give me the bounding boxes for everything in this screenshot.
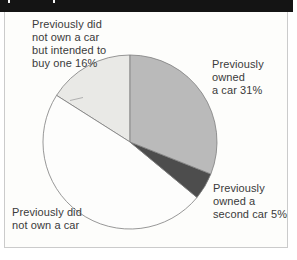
label-owned-car: Previously owned a car 31% <box>212 58 264 97</box>
label-second-car: Previously owned a second car 5% <box>213 182 287 221</box>
label-not-own-car: Previously did not own a car <box>12 206 82 232</box>
label-intended-to-buy: Previously did not own a car but intende… <box>32 18 106 70</box>
